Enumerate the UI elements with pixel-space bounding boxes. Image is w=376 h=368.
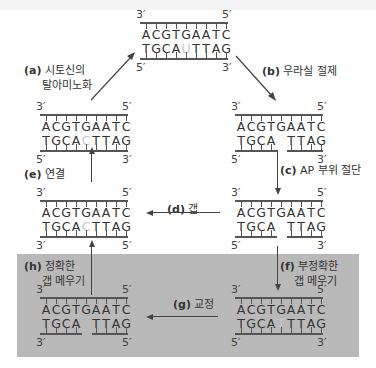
arrow-ap-cleavage [277, 150, 278, 190]
arrowhead-c [275, 188, 281, 195]
arrow-proofreading [152, 316, 218, 317]
arrowhead-e [89, 147, 95, 154]
arrow-accurate-fill [91, 245, 92, 295]
arrow-ligation [91, 152, 92, 182]
arrow-uracil-excision [0, 0, 376, 368]
arrowhead-g [146, 314, 153, 320]
arrowhead-h [89, 240, 95, 247]
arrowhead-d [146, 210, 153, 216]
arrow-inaccurate-fill [277, 246, 278, 286]
arrow-gap [152, 212, 220, 213]
arrowhead-f [275, 284, 281, 291]
